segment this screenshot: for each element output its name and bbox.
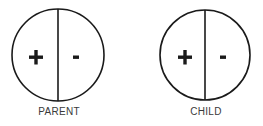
child-label: CHILD: [166, 106, 246, 117]
plus-icon: [178, 50, 192, 65]
plus-icon: [29, 50, 43, 65]
minus-icon: [73, 56, 79, 59]
parent-label: PARENT: [19, 106, 99, 117]
child-circle: [160, 10, 250, 100]
parent-circle: [12, 9, 104, 101]
minus-icon: [220, 56, 226, 59]
